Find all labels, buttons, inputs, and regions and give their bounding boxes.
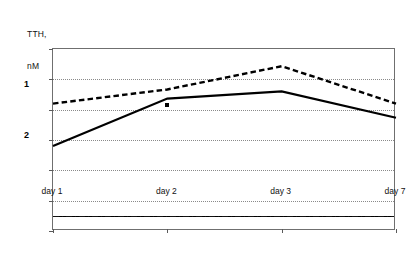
x-tick-label: day 7 <box>385 186 406 196</box>
x-tick-label: day 3 <box>270 186 291 196</box>
series-label-2: 2 <box>24 130 29 140</box>
series-label-1: 1 <box>24 79 29 89</box>
plot-area <box>52 48 395 230</box>
x-tick-label: day 1 <box>42 186 63 196</box>
x-tick-mark <box>53 229 54 233</box>
x-tick-label: day 2 <box>156 186 177 196</box>
y-axis-title-line-2: nM <box>27 61 47 72</box>
series-1-line <box>53 66 396 103</box>
chart-container: TTH, nM 00.30.60.91.21.51.8 day 1day 2da… <box>0 0 413 264</box>
y-axis-title-line-1: TTH, <box>27 29 47 40</box>
series-layer <box>53 49 396 231</box>
series-2-line <box>53 91 396 146</box>
x-tick-mark <box>396 229 397 233</box>
x-tick-mark <box>167 229 168 233</box>
x-tick-mark <box>282 229 283 233</box>
significance-marker <box>165 103 169 107</box>
y-axis-title: TTH, nM <box>27 8 47 92</box>
